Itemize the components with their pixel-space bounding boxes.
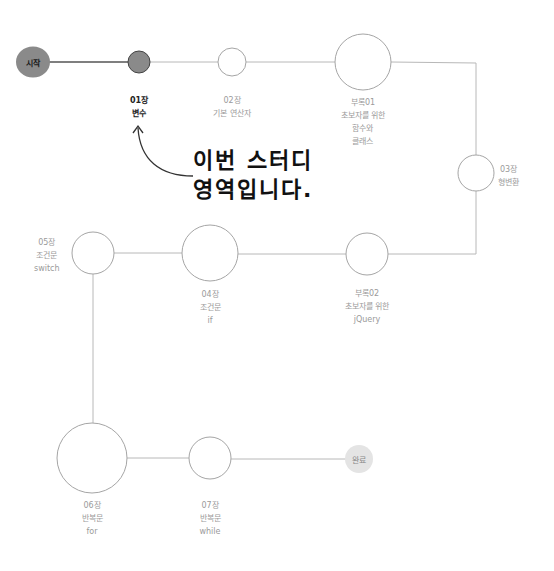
node-ch01 [128,51,150,73]
label-line: 05장 [34,236,60,249]
label-line: 04장 [200,288,221,301]
label-line: 부록02 [345,287,390,300]
callout-line: 영역입니다. [193,175,313,204]
label-line: 03장 [498,163,519,176]
label-line: 01장 [130,94,148,107]
label-ch05: 05장 조건문 switch [34,236,60,275]
study-scope-callout: 이번 스터디 영역입니다. [193,146,313,204]
label-line: 조건문 [34,249,60,262]
label-line: 클래스 [341,135,386,148]
label-app02: 부록02 초보자를 위한 jQuery [345,287,390,326]
label-line: switch [34,262,60,275]
node-ch02 [218,48,246,76]
node-app02 [346,233,388,275]
label-line: 부록01 [341,96,386,109]
label-line: 반복문 [82,512,103,525]
label-line: jQuery [345,313,390,326]
node-ch07 [189,437,231,479]
node-ch06 [57,423,127,493]
label-app01: 부록01 초보자를 위한 함수와 클래스 [341,96,386,148]
label-line: 형변환 [498,176,519,189]
label-line: 기본 연산자 [213,107,251,120]
label-line: 06장 [82,499,103,512]
label-line: if [200,314,221,327]
node-ch05 [72,232,114,274]
label-line: 함수와 [341,122,386,135]
label-ch01: 01장 변수 [130,94,148,120]
label-line: while [200,525,221,538]
label-line: for [82,525,103,538]
node-app01 [335,34,391,90]
callout-line: 이번 스터디 [193,146,313,175]
node-ch04 [182,225,238,281]
callout-arrow [138,128,193,176]
connector-app01-ch03 [391,62,476,155]
node-ch03 [458,155,494,191]
label-ch03: 03장 형변환 [498,163,519,189]
roadmap-diagram [0,0,554,571]
connector-ch03-app02 [388,191,476,254]
label-line: 초보자를 위한 [345,300,390,313]
label-ch02: 02장 기본 연산자 [213,94,251,120]
label-ch04: 04장 조건문 if [200,288,221,327]
end-label: 완료 [352,454,366,465]
label-line: 02장 [213,94,251,107]
label-line: 변수 [130,107,148,120]
label-ch07: 07장 반복문 while [200,499,221,538]
label-line: 조건문 [200,301,221,314]
label-line: 초보자를 위한 [341,109,386,122]
label-line: 반복문 [200,512,221,525]
label-line: 07장 [200,499,221,512]
label-ch06: 06장 반복문 for [82,499,103,538]
start-label: 시작 [26,57,40,68]
